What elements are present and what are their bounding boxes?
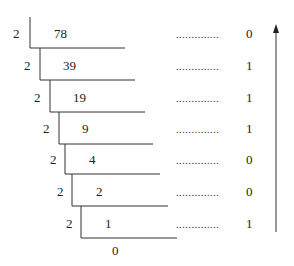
dividend: 39	[63, 58, 76, 73]
remainder: 1	[246, 216, 253, 231]
final-quotient: 0	[112, 243, 119, 258]
remainder: 1	[246, 90, 253, 105]
remainder: 0	[246, 184, 253, 199]
division-step-3: 2 19 .............. 1	[34, 80, 253, 112]
divisor: 2	[57, 184, 64, 199]
division-step-7: 2 1 .............. 1	[66, 206, 253, 238]
leader-dots: ..............	[176, 124, 219, 135]
remainder: 1	[246, 58, 253, 73]
up-arrow-icon	[273, 24, 279, 232]
leader-dots: ..............	[176, 61, 219, 72]
division-step-6: 2 2 .............. 0	[57, 174, 253, 206]
leader-dots: ..............	[176, 29, 219, 40]
leader-dots: ..............	[176, 219, 219, 230]
divisor: 2	[66, 216, 73, 231]
leader-dots: ..............	[176, 155, 219, 166]
remainder: 1	[246, 121, 253, 136]
dividend: 78	[54, 26, 67, 41]
dividend: 9	[82, 121, 89, 136]
divisor: 2	[34, 90, 41, 105]
division-step-2: 2 39 .............. 1	[24, 48, 253, 80]
dividend: 4	[89, 152, 96, 167]
division-step-1: 2 78 .............. 0	[13, 17, 253, 48]
divisor: 2	[13, 26, 20, 41]
divisor: 2	[50, 152, 57, 167]
remainder: 0	[246, 26, 253, 41]
division-step-4: 2 9 .............. 1	[43, 112, 253, 144]
division-step-5: 2 4 .............. 0	[50, 144, 253, 174]
leader-dots: ..............	[176, 187, 219, 198]
remainder: 0	[246, 152, 253, 167]
divisor: 2	[43, 121, 50, 136]
divisor: 2	[24, 58, 31, 73]
leader-dots: ..............	[176, 93, 219, 104]
dividend: 1	[105, 216, 112, 231]
dividend: 2	[96, 184, 103, 199]
division-diagram: 2 78 .............. 0 2 39 .............…	[0, 0, 294, 266]
dividend: 19	[73, 90, 86, 105]
